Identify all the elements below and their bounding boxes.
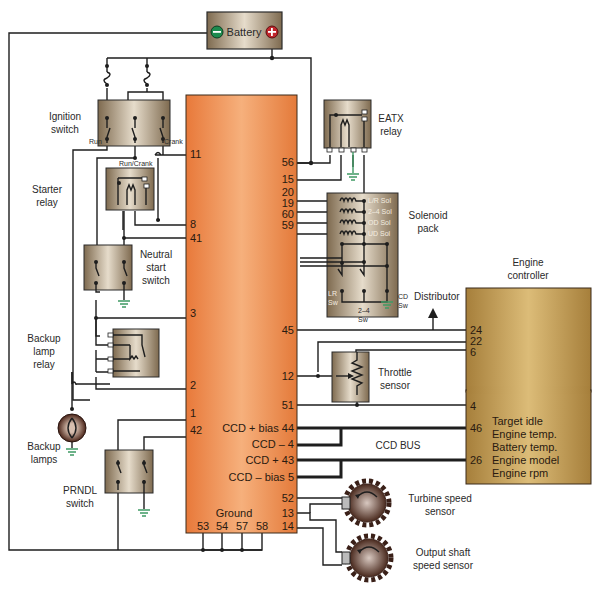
svg-text:sensor: sensor bbox=[380, 380, 411, 391]
backup-lamps-label: Backup bbox=[27, 441, 61, 452]
solenoid-pack-label: Solenoid bbox=[409, 210, 448, 221]
run-crank-terminal-label: Run/Crank bbox=[119, 160, 153, 167]
pin-2: 2 bbox=[190, 379, 196, 391]
pin-ccd-minus-4: CCD – 4 bbox=[252, 438, 294, 450]
pin-54: 54 bbox=[216, 520, 228, 532]
svg-text:relay: relay bbox=[33, 359, 55, 370]
neutral-start-switch-label: Neutral bbox=[140, 249, 172, 260]
solenoid-ud-label: UD Sol bbox=[368, 230, 391, 237]
svg-text:relay: relay bbox=[380, 126, 402, 137]
pin-12: 12 bbox=[282, 370, 294, 382]
pin-41: 41 bbox=[190, 232, 202, 244]
lr-switch-label: LR bbox=[328, 290, 337, 297]
pin-52: 52 bbox=[282, 492, 294, 504]
ecm-pin-4: 4 bbox=[470, 400, 476, 412]
pin-15: 15 bbox=[282, 173, 294, 185]
starter-relay-label: Starter bbox=[32, 184, 63, 195]
svg-text:lamps: lamps bbox=[31, 454, 58, 465]
engine-controller bbox=[466, 288, 591, 392]
svg-text:start: start bbox=[146, 262, 166, 273]
solenoid-od-label: OD Sol bbox=[368, 219, 391, 226]
wiring-diagram: Battery Ignition switch Run Crank Run/Cr… bbox=[0, 0, 599, 589]
svg-text:lamp: lamp bbox=[33, 346, 55, 357]
ground-label: Ground bbox=[216, 507, 253, 519]
pin-59: 59 bbox=[282, 219, 294, 231]
svg-text:speed sensor: speed sensor bbox=[413, 560, 474, 571]
ccd-bus-label: CCD BUS bbox=[375, 440, 420, 451]
turbine-speed-sensor-gear-icon bbox=[342, 481, 389, 525]
transmission-controller bbox=[186, 95, 297, 533]
pin-42: 42 bbox=[190, 424, 202, 436]
ecm-message-engine-rpm: Engine rpm bbox=[492, 467, 548, 479]
ecm-message-target-idle: Target idle bbox=[492, 415, 543, 427]
2-4-switch-label: 2–4 bbox=[358, 307, 370, 314]
svg-text:switch: switch bbox=[51, 124, 79, 135]
ecm-message-engine-model: Engine model bbox=[492, 454, 559, 466]
svg-text:Sw: Sw bbox=[398, 302, 409, 309]
distributor-label: Distributor bbox=[414, 291, 460, 302]
solenoid-2-4-label: 2–4 Sol bbox=[368, 208, 392, 215]
pin-8: 8 bbox=[190, 218, 196, 230]
ignition-switch-label: Ignition bbox=[49, 111, 81, 122]
cd-switch-label: CD bbox=[398, 293, 408, 300]
run-terminal-label: Run bbox=[89, 138, 102, 145]
eatx-relay-label: EATX bbox=[378, 113, 404, 124]
pin-53: 53 bbox=[197, 520, 209, 532]
pin-45: 45 bbox=[282, 324, 294, 336]
svg-text:switch: switch bbox=[142, 275, 170, 286]
crank-terminal-label: Crank bbox=[164, 138, 183, 145]
svg-text:Sw: Sw bbox=[358, 316, 369, 323]
pin-1: 1 bbox=[190, 407, 196, 419]
svg-text:Sw: Sw bbox=[328, 299, 339, 306]
solenoid-lr-label: L/R Sol bbox=[368, 197, 391, 204]
battery-label: Battery bbox=[227, 26, 262, 38]
ecm-pin-26: 26 bbox=[470, 454, 482, 466]
ecm-message-engine-temp: Engine temp. bbox=[492, 428, 557, 440]
pin-ccd-minus-bias-5: CCD – bias 5 bbox=[229, 471, 294, 483]
output-shaft-speed-sensor-label: Output shaft bbox=[416, 547, 471, 558]
engine-controller-label: Engine bbox=[512, 257, 544, 268]
pin-ccd-plus-bias-44: CCD + bias 44 bbox=[222, 422, 294, 434]
svg-text:relay: relay bbox=[36, 197, 58, 208]
pin-11: 11 bbox=[190, 148, 201, 160]
svg-text:pack: pack bbox=[417, 223, 439, 234]
pin-58: 58 bbox=[256, 520, 268, 532]
ecm-message-battery-temp: Battery temp. bbox=[492, 441, 557, 453]
svg-text:switch: switch bbox=[66, 498, 94, 509]
pin-14: 14 bbox=[282, 520, 294, 532]
pin-13: 13 bbox=[282, 507, 294, 519]
svg-text:sensor: sensor bbox=[425, 506, 456, 517]
output-shaft-speed-sensor-gear-icon bbox=[342, 536, 391, 580]
backup-lamp-relay-label: Backup bbox=[27, 333, 61, 344]
svg-text:controller: controller bbox=[507, 270, 549, 281]
pin-ccd-plus-43: CCD + 43 bbox=[245, 454, 294, 466]
pin-51: 51 bbox=[282, 399, 294, 411]
pin-56: 56 bbox=[282, 156, 294, 168]
ecm-pin-46: 46 bbox=[470, 422, 482, 434]
pin-57: 57 bbox=[236, 520, 248, 532]
ecm-pin-6: 6 bbox=[470, 346, 476, 358]
turbine-speed-sensor-label: Turbine speed bbox=[408, 493, 472, 504]
backup-lamp-relay bbox=[113, 329, 159, 377]
pin-3: 3 bbox=[190, 307, 196, 319]
prndl-switch-label: PRNDL bbox=[63, 485, 97, 496]
throttle-sensor-label: Throttle bbox=[378, 367, 412, 378]
